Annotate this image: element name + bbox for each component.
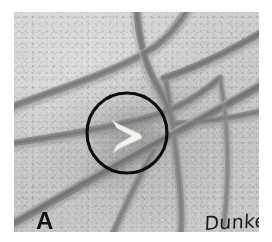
micrograph-image: A Dunker xyxy=(14,12,259,232)
arrowhead-marker xyxy=(112,120,142,153)
handwritten-caption: Dunker xyxy=(204,211,259,232)
figure-panel: A Dunker xyxy=(0,0,272,242)
panel-label: A xyxy=(36,209,53,232)
annotation-overlay-layer xyxy=(14,12,259,232)
annotation-svg xyxy=(14,12,259,232)
